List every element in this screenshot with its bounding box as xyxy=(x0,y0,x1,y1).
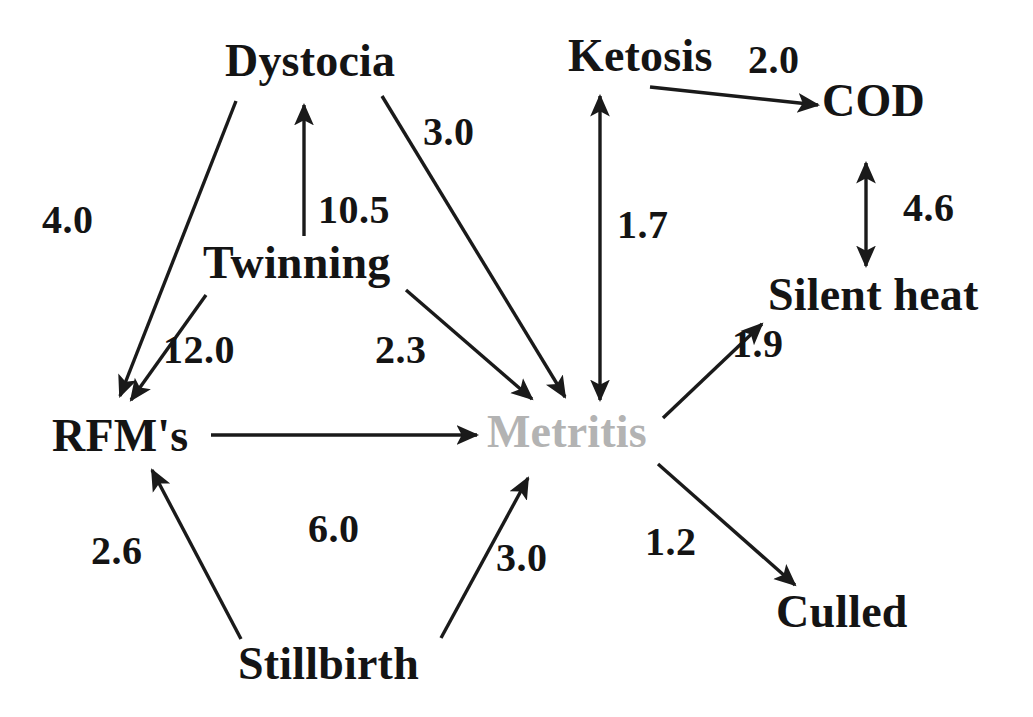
edge-label-metritis-culled: 1.2 xyxy=(645,522,697,562)
edge-label-twinning-metritis: 2.3 xyxy=(375,330,427,370)
edge-ketosis-cod xyxy=(650,87,818,105)
edge-label-ketosis-metritis: 1.7 xyxy=(617,205,669,245)
node-twinning: Twinning xyxy=(203,240,390,286)
causal-diagram: DystociaTwinningRFM'sStillbirthMetritisK… xyxy=(0,0,1033,717)
edge-label-rfms-metritis: 6.0 xyxy=(308,509,360,549)
node-metritis: Metritis xyxy=(487,409,647,455)
edge-label-twinning-dystocia: 10.5 xyxy=(318,190,390,230)
node-silent_heat: Silent heat xyxy=(768,272,978,318)
node-stillbirth: Stillbirth xyxy=(238,641,419,687)
node-culled: Culled xyxy=(776,589,908,635)
node-dystocia: Dystocia xyxy=(225,38,395,84)
edge-stillbirth-rfms xyxy=(152,470,241,639)
edge-label-stillbirth-metritis: 3.0 xyxy=(496,538,548,578)
edge-label-stillbirth-rfms: 2.6 xyxy=(91,531,143,571)
edge-label-dystocia-metritis: 3.0 xyxy=(423,112,475,152)
node-ketosis: Ketosis xyxy=(568,33,713,79)
node-cod: COD xyxy=(822,78,925,124)
edge-label-dystocia-rfms: 4.0 xyxy=(42,200,94,240)
edge-label-cod-silent-heat: 4.6 xyxy=(903,188,955,228)
edge-label-twinning-rfms: 12.0 xyxy=(163,330,235,370)
edge-label-ketosis-cod: 2.0 xyxy=(748,40,800,80)
node-rfms: RFM's xyxy=(52,413,188,459)
edge-label-metritis-silent-heat: 1.9 xyxy=(732,324,784,364)
